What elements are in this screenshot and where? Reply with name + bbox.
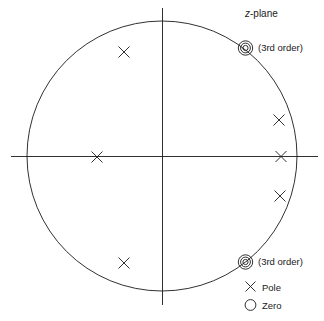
zero-marker-third-order [238, 41, 252, 55]
pole-marker [119, 47, 130, 58]
legend-pole-icon [246, 282, 256, 292]
legend-label-zero: Zero [262, 301, 282, 311]
z-plane-figure: z-plane (3rd order) (3rd order) Pole Zer… [0, 0, 324, 321]
page-title: z-plane [245, 9, 278, 19]
legend-label-pole: Pole [262, 283, 281, 293]
legend-marker-group [245, 282, 256, 311]
legend-zero-icon [245, 300, 256, 311]
pole-marker [119, 258, 130, 269]
unit-circle [27, 21, 297, 291]
pole-marker [92, 152, 103, 163]
plane-suffix: -plane [250, 8, 278, 19]
pole-marker [274, 115, 285, 126]
pole-marker-group [92, 47, 287, 269]
zero-marker-group [238, 41, 252, 269]
pole-marker [275, 191, 286, 202]
annotation-third-order-top: (3rd order) [258, 43, 303, 53]
annotation-third-order-bottom: (3rd order) [258, 257, 303, 267]
